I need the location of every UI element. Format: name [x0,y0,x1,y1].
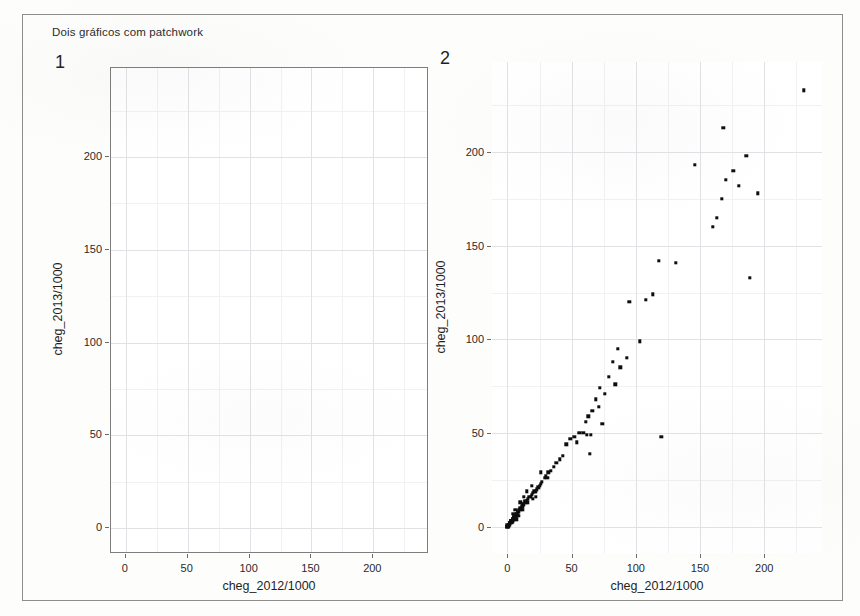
x-tick-label: 150 [691,562,709,574]
scatter-point [732,169,735,172]
scatter-point [657,259,660,262]
x-tick-label: 150 [301,562,319,574]
scatter-point [522,495,525,498]
x-tick-mark [372,554,373,558]
gridline-minor-x [668,62,669,553]
gridline-major-y [492,339,822,340]
gridline-major-x [636,62,637,553]
scatter-point [588,452,591,455]
scatter-point [530,484,533,487]
scatter-point [519,501,522,504]
gridline-minor-x [796,62,797,553]
gridline-minor-y [492,293,822,294]
gridline-major-x [373,68,374,552]
y-tick-mark [105,527,109,528]
gridline-major-y [111,157,427,158]
scatter-point [506,525,509,528]
scatter-point [745,154,748,157]
scatter-point [565,443,568,446]
x-tick-mark [507,554,508,558]
gridline-minor-x [342,68,343,552]
scatter-point [603,392,606,395]
gridline-minor-x [732,62,733,553]
x-tick-mark [249,554,250,558]
x-tick-label: 50 [181,562,193,574]
scatter-point [607,375,610,378]
scatter-point [711,225,714,228]
scatter-point [531,497,534,500]
gridline-major-y [492,527,822,528]
scatter-point [525,489,528,492]
gridline-major-y [111,435,427,436]
y-tick-label: 0 [456,521,484,533]
gridline-minor-x [219,68,220,552]
y-tick-mark [487,246,491,247]
x-tick-mark [125,554,126,558]
figure-title: Dois gráficos com patchwork [52,26,203,38]
x-tick-mark [764,554,765,558]
x-tick-label: 0 [122,562,128,574]
scatter-point [575,441,578,444]
scatter-point [737,184,740,187]
gridline-minor-y [492,105,822,106]
plot-area-1 [110,67,428,553]
y-tick-label: 50 [74,428,102,440]
scatter-point [569,437,572,440]
scatter-point [572,435,575,438]
x-tick-label: 100 [627,562,645,574]
scatter-point [715,216,718,219]
gridline-major-x [572,62,573,553]
scatter-point [802,88,805,91]
scatter-point [651,293,654,296]
scatter-point [674,261,677,264]
scatter-point [511,512,514,515]
gridline-minor-y [492,199,822,200]
y-tick-mark [487,339,491,340]
scatter-point [515,518,518,521]
gridline-major-y [111,343,427,344]
scatter-point [584,420,587,423]
y-tick-mark [105,249,109,250]
x-tick-label: 200 [755,562,773,574]
scatter-point [644,298,647,301]
scatter-point [720,197,723,200]
plot-area-2 [492,62,822,553]
scatter-point [611,360,614,363]
scatter-point [693,163,696,166]
y-tick-label: 200 [456,146,484,158]
gridline-major-y [492,433,822,434]
gridline-minor-y [111,482,427,483]
y-tick-label: 200 [74,150,102,162]
y-tick-mark [105,342,109,343]
gridline-minor-x [404,68,405,552]
y-tick-label: 100 [74,336,102,348]
x-axis-title: cheg_2012/1000 [492,579,822,593]
y-tick-mark [487,433,491,434]
x-tick-label: 0 [504,562,510,574]
scatter-point [526,501,529,504]
gridline-major-x [250,68,251,552]
scatter-point [724,178,727,181]
gridline-minor-x [604,62,605,553]
scatter-point [756,191,759,194]
scatter-point [748,276,751,279]
gridline-minor-y [111,111,427,112]
x-axis-title: cheg_2012/1000 [110,579,428,593]
scatter-point [590,409,593,412]
x-tick-mark [572,554,573,558]
gridline-major-x [507,62,508,553]
y-axis-title: cheg_2013/1000 [51,66,65,552]
y-axis-title: cheg_2013/1000 [433,61,447,552]
scatter-point [619,366,622,369]
gridline-major-y [111,528,427,529]
y-tick-label: 100 [456,333,484,345]
scatter-point [587,414,590,417]
y-tick-mark [487,152,491,153]
y-tick-mark [105,434,109,435]
y-tick-label: 150 [456,240,484,252]
x-tick-label: 100 [239,562,257,574]
x-tick-label: 200 [363,562,381,574]
scatter-point [601,422,604,425]
x-tick-label: 50 [565,562,577,574]
scatter-point [625,356,628,359]
